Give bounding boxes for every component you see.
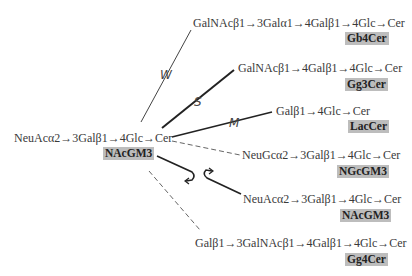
source-name-tag: NAcGM3	[103, 147, 154, 160]
product-chain-gg3: GalNAcβ1→4Galβ1→4Glc→Cer	[238, 61, 402, 75]
edge-m	[172, 112, 272, 137]
product-tag-lac: LacCer	[348, 120, 389, 133]
product-tag-gb4: Gb4Cer	[345, 32, 389, 45]
product-chain-lac: Galβ1→4Glc→Cer	[276, 104, 370, 118]
product-tag-nac: NAcGM3	[340, 209, 391, 222]
edge-label-s: S	[194, 96, 202, 108]
edge-ngc	[172, 141, 240, 155]
edge-label-m: M	[229, 117, 239, 129]
product-chain-gg4: Galβ1→3GalNAcβ1→4Galβ1→4Glc→Cer	[195, 236, 407, 250]
edge-label-w: W	[160, 69, 172, 81]
product-chain-ngc: NeuGcα2→3Galβ1→4Glc→Cer	[242, 148, 400, 162]
edge-nac-left	[157, 156, 194, 181]
source-chain: NeuAcα2→3Galβ1→4Glc→Cer	[14, 131, 172, 145]
product-tag-ngc: NGcGM3	[337, 165, 389, 178]
product-tag-gg4: Gg4Cer	[345, 253, 388, 266]
product-chain-nac: NeuAcα2→3Galβ1→4Glc→Cer	[243, 192, 401, 206]
product-tag-gg3: Gg3Cer	[345, 78, 388, 91]
product-chain-gb4: GalNAcβ1→3Galα1→4Galβ1→4Glc→Cer	[193, 16, 405, 30]
